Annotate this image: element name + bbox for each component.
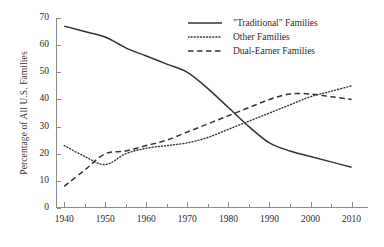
y-tick-label: 10 — [40, 176, 50, 186]
series-line — [64, 93, 351, 186]
legend-item: Dual-Earner Families — [188, 44, 358, 58]
y-tick-label: 60 — [40, 40, 50, 50]
x-tick-label: 1980 — [219, 215, 238, 225]
x-tick-label: 1990 — [260, 215, 279, 225]
y-tick-label: 30 — [40, 122, 50, 132]
legend-label: "Traditional" Families — [233, 18, 318, 28]
y-tick-label: 50 — [40, 68, 50, 78]
x-tick-label: 1960 — [137, 215, 156, 225]
y-axis-title: Percentage of All U.S. Families — [19, 23, 29, 203]
x-tick-label: 1970 — [178, 215, 197, 225]
legend-swatch-dashed-icon — [188, 46, 222, 56]
legend-item: "Traditional" Families — [188, 16, 358, 30]
legend-label: Other Families — [233, 32, 290, 42]
legend-swatch-solid-icon — [188, 18, 222, 28]
y-tick-label: 40 — [40, 95, 50, 105]
legend-item: Other Families — [188, 30, 358, 44]
y-tick-label: 70 — [40, 13, 50, 23]
x-tick-label: 2010 — [342, 215, 361, 225]
y-tick-label: 20 — [40, 149, 50, 159]
legend-label: Dual-Earner Families — [233, 46, 315, 56]
chart-container: Percentage of All U.S. Families 01020304… — [0, 0, 384, 247]
x-tick-label: 1950 — [96, 215, 115, 225]
legend-swatch-dotted-icon — [188, 32, 222, 42]
y-tick-label: 0 — [44, 203, 49, 213]
x-tick-label: 2000 — [301, 215, 320, 225]
y-tick — [57, 208, 61, 209]
x-tick-label: 1940 — [55, 215, 74, 225]
chart-legend: "Traditional" FamiliesOther FamiliesDual… — [188, 16, 358, 58]
